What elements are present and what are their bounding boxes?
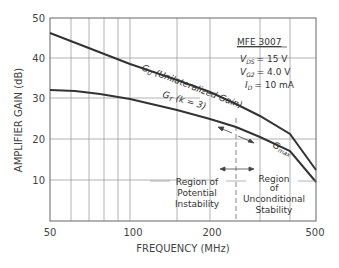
x-axis-label: FREQUENCY (MHz): [136, 243, 229, 254]
device-conditions: MFE 3007 VDS= 15 V VG2= 4.0 V ID= 10 mA: [237, 37, 295, 91]
svg-text:Instability: Instability: [175, 199, 220, 209]
region-boundary-arrow: [220, 167, 254, 171]
y-tick-10: 10: [32, 175, 45, 186]
svg-text:Stability: Stability: [256, 205, 294, 215]
svg-text:Unconditional: Unconditional: [243, 194, 305, 204]
vg2-condition: VG2= 4.0 V: [240, 67, 291, 78]
vds-condition: VDS= 15 V: [240, 54, 288, 65]
region-unconditional-stability: Region of Unconditional Stability: [243, 174, 305, 215]
svg-text:of: of: [270, 183, 280, 193]
x-tick-200: 200: [202, 227, 221, 238]
y-tick-20: 20: [32, 134, 45, 145]
y-tick-30: 30: [32, 93, 45, 104]
id-condition: ID= 10 mA: [245, 80, 295, 91]
y-tick-40: 40: [32, 53, 45, 64]
device-name: MFE 3007: [237, 37, 281, 47]
x-tick-100: 100: [123, 227, 142, 238]
region-potential-instability: Region of Potential Instability: [175, 177, 220, 209]
y-axis-label: AMPLIFIER GAIN (dB): [13, 68, 24, 172]
svg-text:Potential: Potential: [177, 188, 216, 198]
x-tick-50: 50: [44, 227, 57, 238]
gain-vs-frequency-chart: 50 40 30 20 10 50 100 200 500 FREQUENCY …: [0, 0, 339, 268]
svg-text:Region of: Region of: [176, 177, 219, 187]
x-tick-500: 500: [305, 227, 324, 238]
y-tick-50: 50: [32, 13, 45, 24]
gmax-label: Gmax: [271, 140, 294, 159]
